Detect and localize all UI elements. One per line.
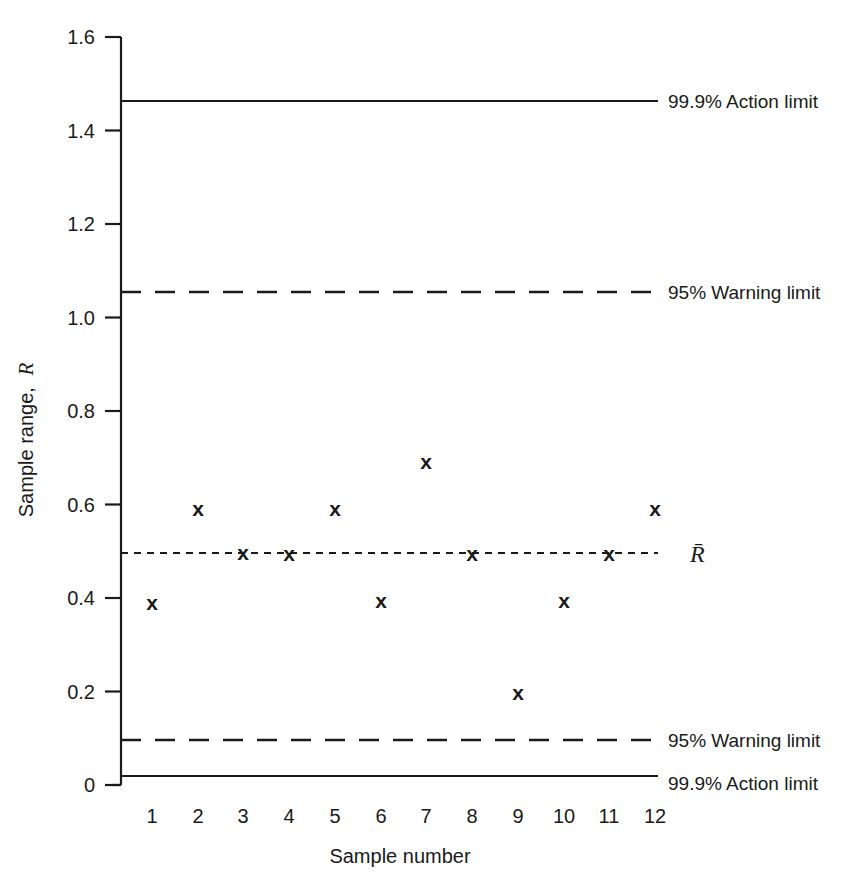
control-chart: 1.6 1.4 1.2 1.0 0.8 0.6 0.4 0.2 0 Sample… xyxy=(0,0,857,877)
data-points-group: x x x x x x x x x x x x xyxy=(146,450,661,704)
data-point-12: x xyxy=(649,497,661,520)
data-point-5: x xyxy=(329,497,341,520)
upper-action-limit-label: 99.9% Action limit xyxy=(668,91,819,112)
y-axis-title-symbol: R xyxy=(14,363,38,377)
x-tick-label-9: 9 xyxy=(512,805,523,827)
data-point-11: x xyxy=(603,542,615,565)
data-point-3: x xyxy=(237,541,249,564)
x-tick-label-3: 3 xyxy=(237,805,248,827)
x-tick-label-5: 5 xyxy=(329,805,340,827)
y-axis-title-group: Sample range, R xyxy=(14,363,38,518)
data-point-8: x xyxy=(466,542,478,565)
y-tick-label-0.2: 0.2 xyxy=(67,681,95,703)
x-tick-label-8: 8 xyxy=(466,805,477,827)
y-tick-label-1.6: 1.6 xyxy=(67,26,95,48)
lower-warning-limit-label: 95% Warning limit xyxy=(668,730,821,751)
limit-labels-group: 99.9% Action limit 95% Warning limit R̄ … xyxy=(668,91,821,794)
y-tick-label-0.6: 0.6 xyxy=(67,494,95,516)
x-tick-label-11: 11 xyxy=(599,805,620,827)
y-tick-label-1.2: 1.2 xyxy=(67,213,95,235)
x-tick-label-7: 7 xyxy=(420,805,431,827)
x-tick-label-2: 2 xyxy=(192,805,203,827)
x-tick-label-1: 1 xyxy=(146,805,157,827)
center-line-label: R̄ xyxy=(689,541,705,567)
data-point-10: x xyxy=(558,589,570,612)
x-axis-title: Sample number xyxy=(329,845,471,867)
limit-lines-group xyxy=(121,101,658,776)
data-point-4: x xyxy=(283,542,295,565)
x-tick-label-10: 10 xyxy=(553,805,575,827)
data-point-9: x xyxy=(512,681,524,704)
y-axis-ticks xyxy=(105,37,121,785)
lower-action-limit-label: 99.9% Action limit xyxy=(668,773,819,794)
data-point-7: x xyxy=(420,450,432,473)
x-axis-tick-labels: 1 2 3 4 5 6 7 8 9 10 11 12 xyxy=(146,805,666,827)
y-axis-title-text: Sample range, xyxy=(15,387,37,517)
x-tick-label-12: 12 xyxy=(644,805,666,827)
x-tick-label-6: 6 xyxy=(375,805,386,827)
upper-warning-limit-label: 95% Warning limit xyxy=(668,282,821,303)
y-tick-label-1.4: 1.4 xyxy=(67,120,95,142)
data-point-1: x xyxy=(146,591,158,614)
y-axis-tick-labels: 1.6 1.4 1.2 1.0 0.8 0.6 0.4 0.2 0 xyxy=(67,26,95,796)
data-point-6: x xyxy=(375,589,387,612)
y-tick-label-0.8: 0.8 xyxy=(67,400,95,422)
chart-page: 1.6 1.4 1.2 1.0 0.8 0.6 0.4 0.2 0 Sample… xyxy=(0,0,857,877)
y-axis-title: Sample range, R xyxy=(14,363,38,518)
x-tick-label-4: 4 xyxy=(283,805,294,827)
y-tick-label-0.4: 0.4 xyxy=(67,587,95,609)
y-tick-label-0: 0 xyxy=(84,774,95,796)
y-tick-label-1.0: 1.0 xyxy=(67,307,95,329)
data-point-2: x xyxy=(192,497,204,520)
